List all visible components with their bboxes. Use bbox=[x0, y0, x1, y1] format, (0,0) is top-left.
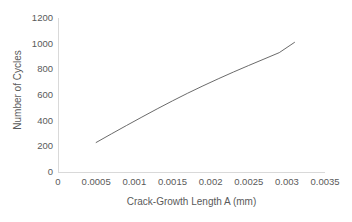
x-tick-label: 0.0005 bbox=[82, 177, 111, 187]
x-tick-label: 0.003 bbox=[275, 177, 299, 187]
x-tick-label: 0.002 bbox=[199, 177, 223, 187]
x-tick-label: 0.0015 bbox=[158, 177, 187, 187]
x-tick-label: 0.0025 bbox=[234, 177, 263, 187]
x-tick-label: 0 bbox=[55, 177, 60, 187]
x-axis-title: Crack-Growth Length A (mm) bbox=[58, 196, 325, 208]
x-tick-label: 0.001 bbox=[122, 177, 146, 187]
x-tick-label: 0.0035 bbox=[310, 177, 339, 187]
chart-container: 020040060080010001200 00.00050.0010.0015… bbox=[0, 0, 352, 222]
y-axis-title: Number of Cycles bbox=[12, 30, 24, 150]
x-axis-tick-labels: 00.00050.0010.00150.0020.00250.0030.0035 bbox=[0, 0, 352, 222]
